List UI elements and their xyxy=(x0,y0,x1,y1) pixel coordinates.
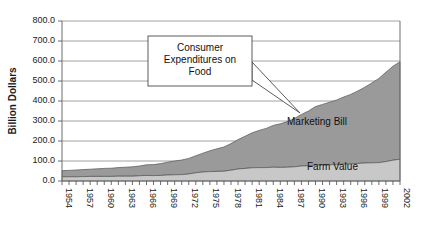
y-tick-label: 0.0 xyxy=(42,175,55,185)
y-tick-label: 300.0 xyxy=(32,115,55,125)
x-tick-label: 1987 xyxy=(296,188,306,208)
chart-container: 0.0100.0200.0300.0400.0500.0600.0700.080… xyxy=(0,0,432,232)
y-tick-label: 400.0 xyxy=(32,95,55,105)
x-tick-label: 1984 xyxy=(275,188,285,208)
x-tick-label: 1975 xyxy=(211,188,221,208)
callout-line-3: Food xyxy=(189,66,212,77)
x-tick-label: 1969 xyxy=(169,188,179,208)
series-label-marketing-bill: Marketing Bill xyxy=(287,116,347,127)
x-tick-label: 1990 xyxy=(317,188,327,208)
x-tick-label: 1966 xyxy=(148,188,158,208)
y-tick-label: 600.0 xyxy=(32,55,55,65)
x-tick-label: 1978 xyxy=(233,188,243,208)
y-tick-label: 200.0 xyxy=(32,135,55,145)
y-tick-label: 500.0 xyxy=(32,75,55,85)
y-tick-label: 700.0 xyxy=(32,35,55,45)
x-tick-label: 1963 xyxy=(127,188,137,208)
x-tick-label: 1972 xyxy=(190,188,200,208)
y-tick-label: 100.0 xyxy=(32,155,55,165)
y-tick-label: 800.0 xyxy=(32,15,55,25)
x-tick-label: 1954 xyxy=(64,188,74,208)
stacked-area-chart: 0.0100.0200.0300.0400.0500.0600.0700.080… xyxy=(0,0,432,232)
y-tick-labels: 0.0100.0200.0300.0400.0500.0600.0700.080… xyxy=(32,15,55,185)
x-tick-label: 2002 xyxy=(402,188,412,208)
callout-line-2: Expenditures on xyxy=(164,54,236,65)
callout-line-1: Consumer xyxy=(177,42,224,53)
x-tick-label: 1960 xyxy=(106,188,116,208)
x-tick-label: 1999 xyxy=(380,188,390,208)
x-tick-label: 1996 xyxy=(359,188,369,208)
x-tick-labels: 1954195719601963196619691972197519781981… xyxy=(64,188,412,208)
x-tick-label: 1981 xyxy=(254,188,264,208)
x-tick-label: 1993 xyxy=(338,188,348,208)
x-tick-label: 1957 xyxy=(85,188,95,208)
series-label-farm-value: Farm Value xyxy=(307,161,358,172)
y-axis-title: Billion Dollars xyxy=(7,67,18,135)
